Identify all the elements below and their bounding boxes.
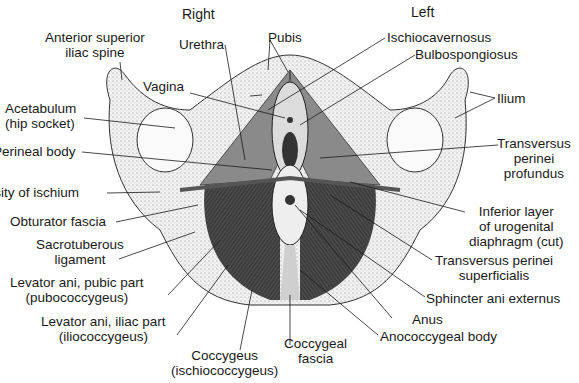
label-sacrotuberous-ligament: Sacrotuberous ligament: [36, 237, 124, 267]
pelvic-floor-diagram: Right Left Anterior superior iliac spine…: [0, 0, 579, 383]
label-ilium: Ilium: [497, 91, 526, 106]
label-levator-ani-pubic-part: Levator ani, pubic part (pubococcygeus): [10, 275, 144, 305]
label-acetabulum: Acetabulum (hip socket): [5, 101, 76, 131]
label-anococcygeal-body: Anococcygeal body: [380, 329, 497, 344]
label-vagina: Vagina: [143, 79, 184, 94]
label-inferior-layer-urogenital-diaphragm: Inferior layer of urogenital diaphragm (…: [469, 204, 564, 249]
orientation-left: Left: [411, 5, 434, 20]
label-anus: Anus: [412, 312, 443, 327]
label-transversus-perinei-superficialis: Transversus perinei superficialis: [435, 253, 553, 283]
label-sphincter-ani-externus: Sphincter ani externus: [426, 291, 560, 306]
label-bulbospongiosus: Bulbospongiosus: [415, 47, 518, 62]
urethral-opening: [287, 117, 293, 123]
label-obturator-fascia: Obturator fascia: [10, 214, 106, 229]
label-anterior-superior-iliac-spine: Anterior superior iliac spine: [45, 30, 145, 60]
label-tuberosity-of-ischium: Tuberosity of ischium: [0, 185, 79, 200]
label-ischiocavernosus: Ischiocavernosus: [387, 30, 491, 45]
anal-opening: [285, 195, 295, 205]
vaginal-opening: [282, 132, 298, 168]
label-urethra: Urethra: [179, 37, 224, 52]
label-coccygeus: Coccygeus (ischiococcygeus): [171, 348, 278, 378]
label-perineal-body: Perineal body: [0, 144, 76, 159]
label-transversus-perinei-profundus: Transversus perinei profundus: [497, 136, 571, 181]
label-levator-ani-iliac-part: Levator ani, iliac part (iliococcygeus): [41, 314, 166, 344]
orientation-right: Right: [182, 7, 215, 22]
label-coccygeal-fascia: Coccygeal fascia: [284, 336, 347, 366]
label-pubis: Pubis: [268, 30, 302, 45]
